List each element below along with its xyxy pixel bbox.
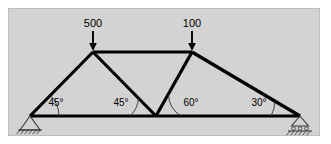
load-label-100: 100 [183,17,201,29]
angle-label-left-diagonal: 45° [113,97,128,108]
angle-label-right-support: 30° [251,97,266,108]
angle-label-left-support: 45° [48,97,63,108]
load-label-500: 500 [84,17,102,29]
truss-diagram-figure: 45° 45° 60° 30° 500 100 [0,0,331,144]
angle-label-right-diagonal: 60° [183,97,198,108]
truss-diagram-canvas: 45° 45° 60° 30° 500 100 [0,0,331,144]
